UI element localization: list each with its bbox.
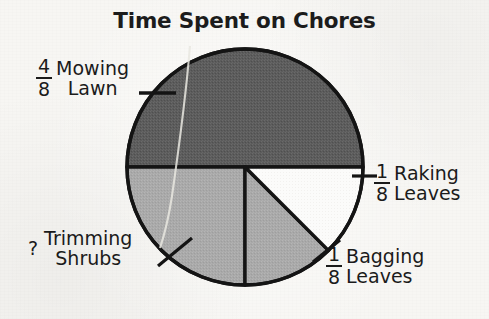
- unknown-value-marker: ?: [28, 238, 38, 258]
- fraction-numerator: 1: [374, 162, 390, 184]
- pie-chart-figure: Time Spent on Chores: [0, 0, 489, 319]
- slice-label-text: Bagging Leaves: [346, 246, 424, 286]
- slice-label-text: Mowing Lawn: [56, 58, 129, 98]
- fraction-denominator: 8: [374, 184, 390, 204]
- slice-label-text: Raking Leaves: [394, 163, 460, 203]
- slice-label-bagging-leaves[interactable]: 1 8 Bagging Leaves: [326, 245, 424, 287]
- fraction-numerator: 4: [36, 57, 52, 79]
- slice-label-mowing-lawn[interactable]: 4 8 Mowing Lawn: [36, 57, 129, 99]
- slice-label-raking-leaves[interactable]: 1 8 Raking Leaves: [374, 162, 461, 204]
- fraction-mowing-lawn: 4 8: [36, 57, 52, 99]
- fraction-raking-leaves: 1 8: [374, 162, 390, 204]
- fraction-bagging-leaves: 1 8: [326, 245, 342, 287]
- fraction-denominator: 8: [36, 79, 52, 99]
- fraction-numerator: 1: [326, 245, 342, 267]
- slice-label-text: Trimming Shrubs: [44, 228, 132, 268]
- slice-label-trimming-shrubs[interactable]: ? Trimming Shrubs: [28, 228, 132, 268]
- fraction-denominator: 8: [326, 267, 342, 287]
- pie-slice-mowing-lawn[interactable]: [127, 49, 363, 167]
